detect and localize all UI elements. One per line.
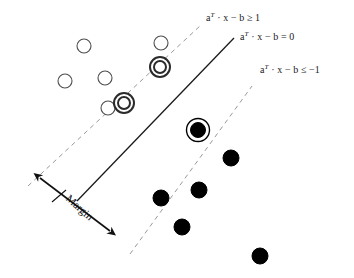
lower-boundary-equation-label: aT · x − b ≤ −1 (260, 63, 320, 75)
filled-circle-marker (252, 248, 268, 264)
upper-eq-rest: · x − b ≥ 1 (215, 12, 261, 23)
svm-margin-diagram: aT · x − b ≥ 1 aT · x − b = 0 aT · x − b… (0, 0, 354, 278)
data-point-positive (101, 101, 115, 115)
hyperplane-equation-label: aT · x − b = 0 (240, 30, 294, 42)
support-vector-core (191, 123, 206, 138)
filled-circle-marker (174, 219, 190, 235)
data-point-positive (150, 57, 170, 77)
hollow-circle-marker (98, 71, 112, 85)
filled-circle-marker (191, 182, 207, 198)
data-point-positive (98, 71, 112, 85)
data-point-positive (154, 36, 168, 50)
support-vector-core (118, 97, 130, 109)
boundary-lines-group (28, 25, 252, 254)
data-point-negative (187, 119, 210, 142)
data-point-negative (252, 248, 268, 264)
data-point-negative (174, 219, 190, 235)
data-point-positive (114, 93, 134, 113)
hollow-circle-marker (77, 39, 91, 53)
data-point-positive (77, 39, 91, 53)
support-vector-core (154, 61, 166, 73)
hollow-circle-marker (154, 36, 168, 50)
filled-circle-marker (223, 150, 239, 166)
data-point-negative (153, 190, 169, 206)
data-point-negative (223, 150, 239, 166)
hyperplane-eq-rest: · x − b = 0 (249, 31, 295, 42)
lower-eq-rest: · x − b ≤ −1 (269, 64, 320, 75)
hollow-circle-marker (58, 74, 72, 88)
data-point-negative (191, 182, 207, 198)
upper-boundary-equation-label: aT · x − b ≥ 1 (206, 11, 260, 23)
filled-circle-marker (153, 190, 169, 206)
data-points-group (58, 36, 268, 264)
hollow-circle-marker (101, 101, 115, 115)
data-point-positive (58, 74, 72, 88)
lower-margin-boundary (130, 86, 252, 254)
diagram-canvas (0, 0, 354, 278)
